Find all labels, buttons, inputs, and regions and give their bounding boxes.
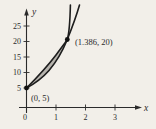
- y-tick-label-25: 25: [13, 22, 21, 31]
- y-axis-arrow-icon: [24, 9, 29, 16]
- x-tick-label-2: 2: [84, 113, 88, 122]
- exponential-curve: [27, 5, 80, 88]
- y-tick-label-10: 10: [13, 68, 21, 77]
- y-tick-label-20: 20: [13, 37, 21, 46]
- y-axis-label: y: [31, 7, 37, 17]
- graph-figure: 25 20 15 10 5 0 1 2 3 y x (0, 5) (1.386,…: [0, 0, 156, 129]
- x-axis-label: x: [143, 103, 149, 113]
- x-tick-label-1: 1: [54, 113, 58, 122]
- x-tick-label-3: 3: [113, 113, 117, 122]
- point-origin-label: (0, 5): [31, 93, 50, 103]
- point-origin: [24, 86, 29, 91]
- y-tick-label-15: 15: [13, 53, 21, 62]
- plot-canvas: 25 20 15 10 5 0 1 2 3 y x (0, 5) (1.386,…: [0, 0, 156, 129]
- x-axis-arrow-icon: [135, 105, 142, 110]
- point-intersection: [65, 37, 70, 42]
- x-tick-label-0: 0: [23, 113, 27, 122]
- y-tick-label-5: 5: [17, 84, 21, 93]
- point-intersection-label: (1.386, 20): [75, 37, 113, 47]
